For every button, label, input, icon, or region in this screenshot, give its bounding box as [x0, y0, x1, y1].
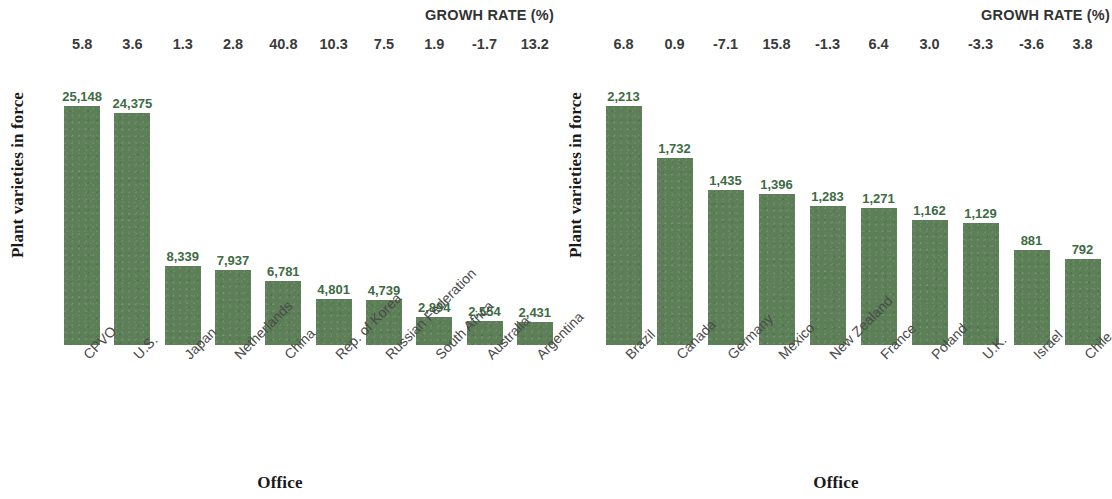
bar-value-label: 25,148 [62, 90, 102, 104]
growth-rate-value: 1.9 [409, 33, 459, 55]
growth-rate-value: 2.8 [208, 33, 258, 55]
x-tick-slot: Rep. of Korea [308, 349, 358, 359]
x-tick-slot: Germany [700, 349, 751, 359]
bar-value-label: 1,271 [862, 192, 895, 206]
bar-column: 881 [1006, 88, 1057, 345]
bar-column: 2,431 [510, 88, 560, 345]
bar [963, 223, 999, 345]
bar [657, 158, 693, 345]
bar-column: 7,937 [208, 88, 258, 345]
bar-value-label: 1,283 [811, 190, 844, 204]
bar [215, 270, 251, 345]
x-tick-labels-left: CPVOU.S.JapanNetherlandsChinaRep. of Kor… [57, 349, 560, 359]
dual-bar-chart-figure: GROWH RATE (%) 5.83.61.32.840.810.37.51.… [0, 0, 1112, 499]
bar-value-label: 881 [1021, 234, 1043, 248]
x-tick-slot: Australia [459, 349, 509, 359]
bar-value-label: 1,129 [964, 207, 997, 221]
bar-column: 792 [1057, 88, 1108, 345]
growth-rate-value: 10.3 [308, 33, 358, 55]
bar-column: 2,213 [598, 88, 649, 345]
x-tick-slot: South Africa [409, 349, 459, 359]
x-tick-slot: New Zealand [802, 349, 853, 359]
bar-column: 1,283 [802, 88, 853, 345]
growth-rate-value: 7.5 [359, 33, 409, 55]
growth-rate-value: -1.7 [459, 33, 509, 55]
chart-panel-left: GROWH RATE (%) 5.83.61.32.840.810.37.51.… [0, 0, 560, 499]
bar [1065, 259, 1101, 345]
x-tick-slot: U.K. [955, 349, 1006, 359]
bar-value-label: 6,781 [267, 265, 300, 279]
x-tick-slot: Japan [158, 349, 208, 359]
bar-value-label: 4,801 [317, 283, 350, 297]
x-tick-slot: Netherlands [208, 349, 258, 359]
x-tick-slot: France [853, 349, 904, 359]
bar-value-label: 1,732 [658, 142, 691, 156]
growth-rate-title-left: GROWH RATE (%) [425, 7, 554, 23]
bar-column: 24,375 [107, 88, 157, 345]
bar-column: 1,732 [649, 88, 700, 345]
x-tick-slot: China [258, 349, 308, 359]
bar-value-label: 7,937 [217, 254, 250, 268]
growth-rate-value: 0.9 [649, 33, 700, 55]
x-tick-slot: Brazil [598, 349, 649, 359]
growth-rate-value: 15.8 [751, 33, 802, 55]
x-tick-slot: CPVO [57, 349, 107, 359]
growth-rate-value: -1.3 [802, 33, 853, 55]
growth-rate-value: 6.4 [853, 33, 904, 55]
growth-rate-row-right: 6.80.9-7.115.8-1.36.43.0-3.3-3.63.8 [598, 33, 1108, 55]
x-tick-slot: Canada [649, 349, 700, 359]
x-axis-title-left: Office [0, 473, 560, 493]
bar [64, 106, 100, 345]
plot-area-right: 2,2131,7321,4351,3961,2831,2711,1621,129… [598, 88, 1108, 345]
bar [912, 220, 948, 345]
bar-value-label: 1,162 [913, 204, 946, 218]
growth-rate-value: 3.8 [1057, 33, 1108, 55]
bar-column: 1,396 [751, 88, 802, 345]
bar-value-label: 1,396 [760, 178, 793, 192]
bar-value-label: 24,375 [113, 97, 153, 111]
growth-rate-value: 5.8 [57, 33, 107, 55]
bar-column: 1,435 [700, 88, 751, 345]
bar-column: 25,148 [57, 88, 107, 345]
growth-rate-value: 6.8 [598, 33, 649, 55]
x-axis-title-right: Office [560, 473, 1112, 493]
growth-rate-value: -3.3 [955, 33, 1006, 55]
x-tick-slot: U.S. [107, 349, 157, 359]
x-tick-slot: Mexico [751, 349, 802, 359]
growth-rate-value: -3.6 [1006, 33, 1057, 55]
growth-rate-value: 3.6 [107, 33, 157, 55]
chart-panel-right: GROWH RATE (%) 6.80.9-7.115.8-1.36.43.0-… [560, 0, 1112, 499]
growth-rate-value: 1.3 [158, 33, 208, 55]
y-axis-title-left: Plant varieties in force [8, 92, 28, 258]
growth-rate-value: -7.1 [700, 33, 751, 55]
bar [606, 106, 642, 345]
x-tick-slot: Russian Federation [359, 349, 409, 359]
bar-value-label: 1,435 [709, 174, 742, 188]
bar-value-label: 2,213 [607, 90, 640, 104]
x-tick-labels-right: BrazilCanadaGermanyMexicoNew ZealandFran… [598, 349, 1108, 359]
x-tick-slot: Israel [1006, 349, 1057, 359]
x-tick-slot: Poland [904, 349, 955, 359]
growth-rate-value: 3.0 [904, 33, 955, 55]
x-tick-slot: Argentina [510, 349, 560, 359]
bar-column: 4,801 [308, 88, 358, 345]
growth-rate-value: 13.2 [510, 33, 560, 55]
bar [165, 266, 201, 345]
bar-value-label: 792 [1072, 243, 1094, 257]
bar-column: 1,129 [955, 88, 1006, 345]
y-axis-title-right: Plant varieties in force [566, 92, 586, 258]
bar [114, 113, 150, 345]
growth-rate-title-right: GROWH RATE (%) [981, 7, 1110, 23]
bar [1014, 250, 1050, 345]
x-tick-slot: Chile [1057, 349, 1108, 359]
growth-rate-row-left: 5.83.61.32.840.810.37.51.9-1.713.2 [57, 33, 560, 55]
growth-rate-value: 40.8 [258, 33, 308, 55]
bar-value-label: 8,339 [166, 250, 199, 264]
bar [810, 206, 846, 345]
bar-column: 1,162 [904, 88, 955, 345]
bar-column: 8,339 [158, 88, 208, 345]
